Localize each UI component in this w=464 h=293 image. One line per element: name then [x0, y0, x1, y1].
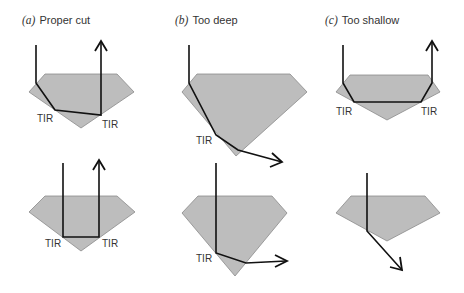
- gem-b-top: TIR: [182, 45, 307, 167]
- gem-a-top: TIR TIR: [29, 41, 134, 130]
- gem-a-bottom: TIR TIR: [29, 160, 135, 251]
- gem-c-top: TIR TIR: [336, 41, 440, 120]
- panel-title: Too shallow: [342, 14, 400, 26]
- tir-label: TIR: [336, 106, 352, 117]
- tir-label: TIR: [196, 135, 212, 146]
- svg-text:(c)Too shallow: (c)Too shallow: [325, 14, 399, 27]
- tir-label: TIR: [196, 253, 212, 264]
- panel-title: Proper cut: [39, 14, 90, 26]
- panel-title-b: (b)Too deep: [175, 14, 238, 27]
- panel-letter: (b): [175, 14, 189, 27]
- svg-text:(a)Proper cut: (a)Proper cut: [22, 14, 90, 27]
- tir-label: TIR: [45, 238, 61, 249]
- tir-label: TIR: [102, 119, 118, 130]
- panel-title-c: (c)Too shallow: [325, 14, 399, 27]
- panel-letter: (c): [325, 14, 338, 27]
- diamond-shape: [336, 196, 440, 241]
- tir-label: TIR: [102, 238, 118, 249]
- tir-label: TIR: [37, 113, 53, 124]
- svg-text:(b)Too deep: (b)Too deep: [175, 14, 238, 27]
- gem-b-bottom: TIR: [182, 163, 287, 276]
- diamond-shape: [182, 196, 287, 276]
- diamond-cut-diagram: (a)Proper cut (b)Too deep (c)Too shallow…: [0, 0, 464, 293]
- gem-c-bottom: [336, 173, 440, 270]
- tir-label: TIR: [421, 106, 437, 117]
- panel-title-a: (a)Proper cut: [22, 14, 90, 27]
- panel-letter: (a): [22, 14, 36, 27]
- panel-title: Too deep: [192, 14, 237, 26]
